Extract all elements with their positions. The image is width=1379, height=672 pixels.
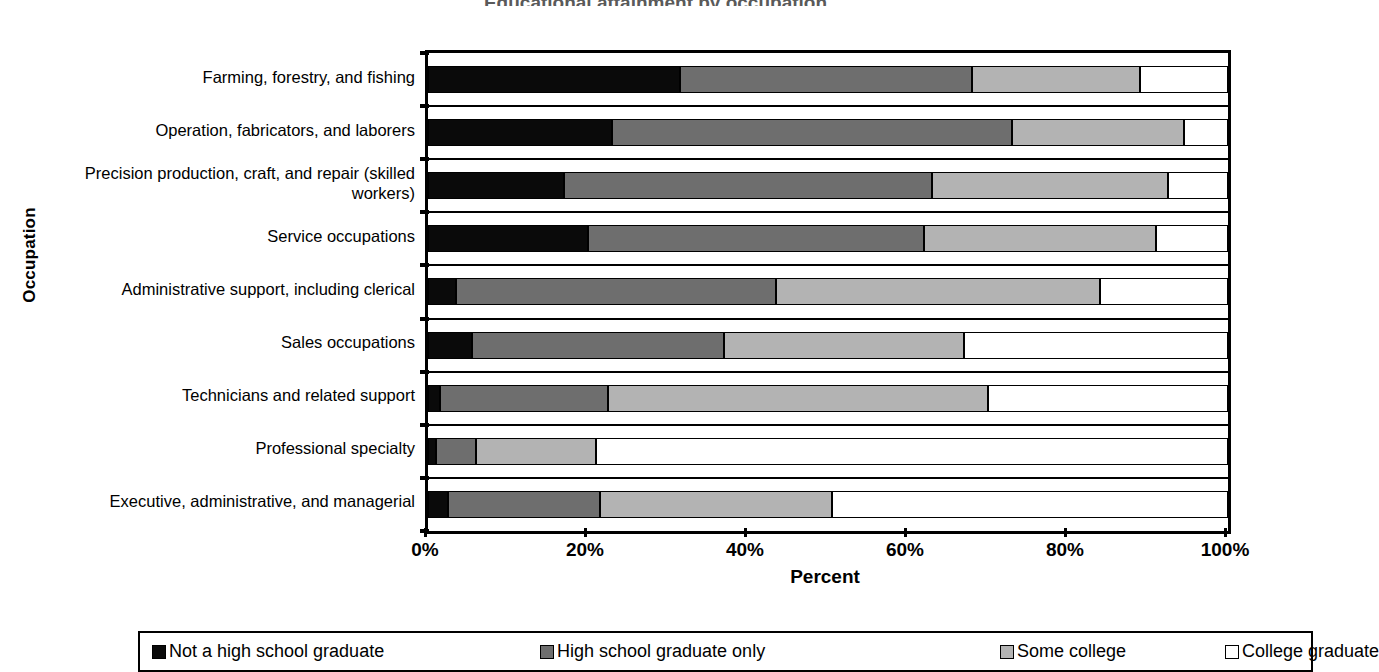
stacked-bar[interactable] [428,278,1228,305]
bar-segment[interactable] [964,332,1228,359]
bar-segment[interactable] [600,491,832,518]
bar-segment[interactable] [456,278,776,305]
bar-segment[interactable] [1156,225,1228,252]
bar-segment[interactable] [428,332,472,359]
bar-row [428,425,1228,478]
legend-swatch-icon [152,645,166,659]
x-axis-tick-label: 80% [1046,539,1084,561]
bar-segment[interactable] [832,491,1228,518]
x-axis-tick [1224,528,1227,537]
y-axis-label: Professional specialty [60,438,415,458]
plot-area [425,50,1231,534]
stacked-bar[interactable] [428,225,1228,252]
y-axis-tick [420,51,429,55]
x-axis-tick [424,528,427,537]
bar-row [428,265,1228,318]
bar-segment[interactable] [588,225,924,252]
bar-row [428,319,1228,372]
chart-title: Educational attainment by occupation [0,0,1311,6]
y-axis-label: Operation, fabricators, and laborers [60,120,415,140]
stacked-bar[interactable] [428,172,1228,199]
bar-segment[interactable] [428,438,436,465]
bar-segment[interactable] [1184,119,1228,146]
y-axis-label: Sales occupations [60,332,415,352]
legend-swatch-icon [1000,645,1014,659]
bar-segment[interactable] [680,66,972,93]
y-axis-label: Farming, forestry, and fishing [60,67,415,87]
bar-segment[interactable] [428,119,612,146]
stacked-bar[interactable] [428,119,1228,146]
y-axis-label: Service occupations [60,226,415,246]
bar-row [428,372,1228,425]
bar-segment[interactable] [724,332,964,359]
x-axis-tick-label: 20% [566,539,604,561]
legend-label: High school graduate only [557,641,765,662]
stacked-bar[interactable] [428,332,1228,359]
x-axis-tick-label: 40% [726,539,764,561]
bar-segment[interactable] [436,438,476,465]
bar-row [428,478,1228,531]
legend-item[interactable]: Some college [1000,641,1126,662]
legend-item[interactable]: College graduate [1225,641,1379,662]
bar-segment[interactable] [924,225,1156,252]
bar-row [428,53,1228,106]
bar-row [428,159,1228,212]
bar-segment[interactable] [1100,278,1228,305]
bar-segment[interactable] [472,332,724,359]
bar-row [428,106,1228,159]
y-axis-label: Executive, administrative, and manageria… [60,491,415,511]
x-axis-tick [744,528,747,537]
bar-segment[interactable] [448,491,600,518]
x-axis-tick-label: 100% [1201,539,1250,561]
bar-segment[interactable] [1140,66,1228,93]
bar-segment[interactable] [428,491,448,518]
x-axis-tick [1064,528,1067,537]
bar-segment[interactable] [932,172,1168,199]
legend-swatch-icon [1225,645,1239,659]
x-axis-title: Percent [425,566,1225,588]
legend-label: Some college [1017,641,1126,662]
bar-row [428,212,1228,265]
legend-label: College graduate [1242,641,1379,662]
bar-segment[interactable] [428,225,588,252]
x-axis-tick-label: 60% [886,539,924,561]
bar-segment[interactable] [428,278,456,305]
bar-segment[interactable] [476,438,596,465]
bar-segment[interactable] [988,385,1228,412]
bar-segment[interactable] [428,66,680,93]
legend-swatch-icon [540,645,554,659]
y-axis-label: Technicians and related support [60,385,415,405]
legend-item[interactable]: Not a high school graduate [152,641,384,662]
bar-segment[interactable] [608,385,988,412]
bar-segment[interactable] [612,119,1012,146]
stacked-bar[interactable] [428,438,1228,465]
chart-legend: Not a high school graduateHigh school gr… [138,631,1313,672]
bar-segment[interactable] [564,172,932,199]
y-axis-label: Precision production, craft, and repair … [60,163,415,203]
legend-item[interactable]: High school graduate only [540,641,765,662]
stacked-bar[interactable] [428,385,1228,412]
y-axis-label: Administrative support, including cleric… [60,279,415,299]
bar-segment[interactable] [428,172,564,199]
y-axis-category-labels: Farming, forestry, and fishingOperation,… [60,50,415,528]
x-axis-tick-label: 0% [411,539,438,561]
stacked-bar[interactable] [428,491,1228,518]
bar-segment[interactable] [596,438,1228,465]
x-axis-tick [904,528,907,537]
x-axis-tick [584,528,587,537]
y-axis-title: Occupation [20,155,40,355]
stacked-bar[interactable] [428,66,1228,93]
bar-segment[interactable] [1168,172,1228,199]
bar-segment[interactable] [776,278,1100,305]
bar-segment[interactable] [972,66,1140,93]
legend-label: Not a high school graduate [169,641,384,662]
bar-segment[interactable] [440,385,608,412]
bar-segment[interactable] [428,385,440,412]
bar-segment[interactable] [1012,119,1184,146]
